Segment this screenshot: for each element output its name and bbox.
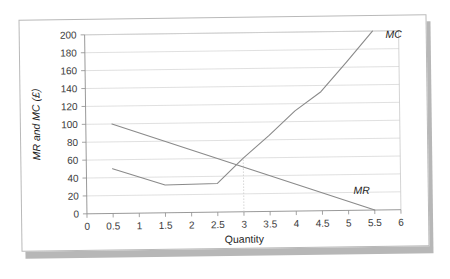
y-axis-tick-label: 100 bbox=[61, 119, 78, 130]
x-axis-tick-label: 6 bbox=[398, 217, 404, 228]
x-axis-tick-label: 5 bbox=[346, 217, 352, 228]
x-axis-tick-label: 4.5 bbox=[316, 218, 330, 229]
x-axis-tick-label: 1.5 bbox=[159, 220, 173, 231]
y-axis-tick-label: 200 bbox=[60, 29, 77, 40]
x-axis-title: Quantity bbox=[225, 232, 265, 245]
figure-root: 020406080100120140160180200 00.511.522.5… bbox=[0, 0, 450, 279]
x-axis-tick-label: 0 bbox=[84, 221, 90, 232]
x-axis-tick-label: 2 bbox=[189, 219, 195, 230]
y-axis-tick-labels: 020406080100120140160180200 bbox=[60, 29, 80, 219]
y-axis-tick-label: 140 bbox=[61, 83, 78, 94]
y-axis-tick-label: 160 bbox=[60, 65, 77, 76]
y-axis-title: MR and MC (£) bbox=[29, 89, 42, 161]
y-axis-tick-label: 40 bbox=[67, 173, 79, 184]
y-axis-tick-label: 80 bbox=[67, 137, 79, 148]
y-axis-tick-label: 180 bbox=[60, 47, 77, 58]
y-axis-tick-label: 20 bbox=[68, 191, 80, 202]
series-label-mr: MR bbox=[353, 184, 370, 196]
x-axis-tick-label: 3 bbox=[241, 219, 247, 230]
x-axis-tick-label: 1 bbox=[137, 220, 143, 231]
y-axis-tick-label: 0 bbox=[73, 208, 79, 219]
x-axis-tick-label: 3.5 bbox=[263, 218, 277, 229]
x-axis-tick-labels: 00.511.522.533.544.555.56 bbox=[84, 217, 404, 232]
chart-container: 020406080100120140160180200 00.511.522.5… bbox=[0, 0, 450, 279]
mr-mc-chart-svg: 020406080100120140160180200 00.511.522.5… bbox=[0, 0, 450, 279]
x-axis-tick-label: 2.5 bbox=[211, 219, 225, 230]
x-axis-tick-label: 0.5 bbox=[106, 220, 120, 231]
x-axis-tick-label: 5.5 bbox=[368, 217, 382, 228]
y-axis-tick-label: 60 bbox=[67, 155, 79, 166]
x-axis-tick-label: 4 bbox=[294, 218, 300, 229]
y-axis-tick-label: 120 bbox=[61, 101, 78, 112]
series-label-mc: MC bbox=[385, 28, 402, 40]
